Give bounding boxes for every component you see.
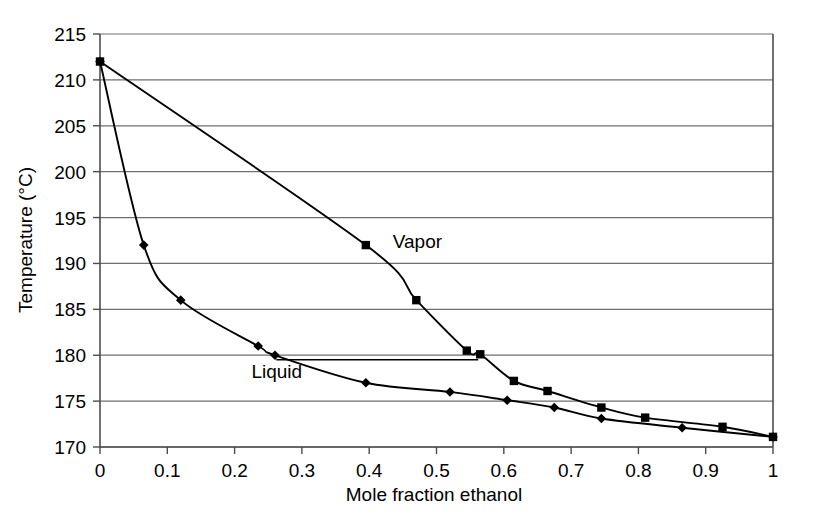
x-tick-label-0.7: 0.7 xyxy=(558,460,584,481)
y-tick-label-210: 210 xyxy=(54,70,86,91)
marker-vapor-4 xyxy=(476,350,484,358)
series-label-vapor: Vapor xyxy=(393,231,443,252)
y-tick-label-215: 215 xyxy=(54,24,86,45)
y-tick-label-185: 185 xyxy=(54,299,86,320)
marker-vapor-2 xyxy=(412,296,420,304)
x-tick-label-0: 0 xyxy=(95,460,106,481)
x-tick-label-0.8: 0.8 xyxy=(625,460,651,481)
y-tick-label-200: 200 xyxy=(54,162,86,183)
marker-vapor-9 xyxy=(718,423,726,431)
vle-phase-diagram: 00.10.20.30.40.50.60.70.80.91 1701751801… xyxy=(0,0,818,532)
x-axis-title: Mole fraction ethanol xyxy=(346,484,522,505)
marker-vapor-5 xyxy=(510,377,518,385)
x-tick-label-0.3: 0.3 xyxy=(289,460,315,481)
y-tick-label-170: 170 xyxy=(54,437,86,458)
x-tick-label-0.9: 0.9 xyxy=(692,460,718,481)
marker-vapor-7 xyxy=(597,403,605,411)
x-tick-label-0.4: 0.4 xyxy=(356,460,383,481)
x-tick-label-0.6: 0.6 xyxy=(491,460,517,481)
y-tick-label-195: 195 xyxy=(54,208,86,229)
chart-canvas: 00.10.20.30.40.50.60.70.80.91 1701751801… xyxy=(0,0,818,532)
x-tick-label-0.5: 0.5 xyxy=(423,460,449,481)
marker-vapor-8 xyxy=(641,413,649,421)
series-label-liquid: Liquid xyxy=(251,361,302,382)
y-axis-title: Temperature (°C) xyxy=(15,167,36,313)
marker-vapor-1 xyxy=(362,241,370,249)
y-tick-label-190: 190 xyxy=(54,253,86,274)
x-tick-label-1: 1 xyxy=(768,460,779,481)
marker-vapor-3 xyxy=(463,346,471,354)
y-tick-label-180: 180 xyxy=(54,345,86,366)
x-tick-label-0.2: 0.2 xyxy=(221,460,247,481)
marker-vapor-6 xyxy=(543,387,551,395)
y-tick-label-175: 175 xyxy=(54,391,86,412)
x-tick-label-0.1: 0.1 xyxy=(154,460,180,481)
y-tick-label-205: 205 xyxy=(54,116,86,137)
